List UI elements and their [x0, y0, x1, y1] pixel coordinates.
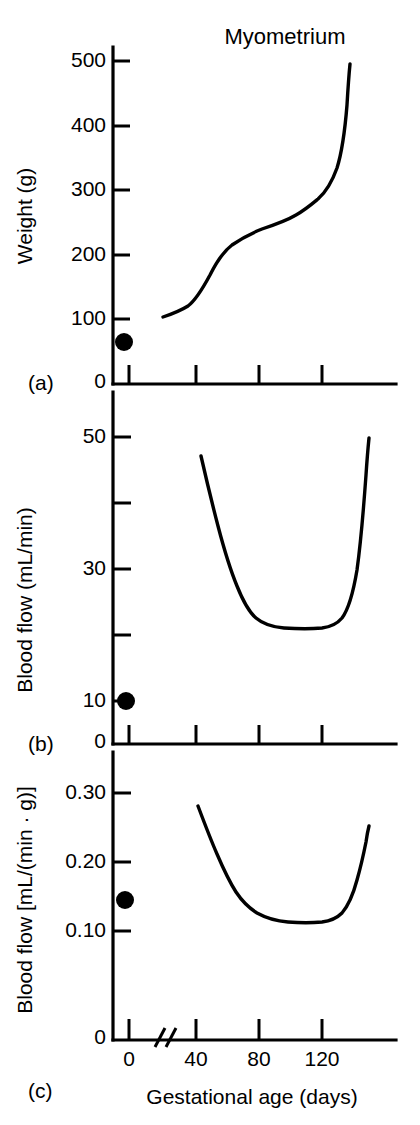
- panel-b-ylabel-10: 10: [83, 688, 106, 711]
- panel-b-ylabel-30: 30: [83, 556, 106, 579]
- xtick-label-0: 0: [123, 1047, 135, 1070]
- panel-a-ylabel-100: 100: [71, 306, 106, 329]
- panel-a-nonpregnant-dot: [115, 333, 133, 351]
- panel-a-ylabel-500: 500: [71, 48, 106, 71]
- panel-a-ylabel-300: 300: [71, 177, 106, 200]
- panel-c-letter: (c): [28, 1079, 53, 1102]
- x-axis-title: Gestational age (days): [146, 1085, 357, 1108]
- xtick-label-120: 120: [304, 1047, 339, 1070]
- panel-a: Myometrium 500 400 300 200 100 0: [13, 24, 396, 394]
- myometrium-figure: Myometrium 500 400 300 200 100 0: [0, 0, 420, 1125]
- panel-c-ylabel-030: 0.30: [65, 780, 106, 803]
- panel-b-y-axis-title: Blood flow (mL/min): [13, 507, 36, 693]
- x-axis-break-marks: [155, 1028, 176, 1047]
- panel-b: 50 30 10 0 Blood flow (mL/min) (b): [13, 392, 396, 755]
- panel-b-ylabel-0: 0: [94, 729, 106, 752]
- panel-a-y-axis-title: Weight (g): [13, 168, 36, 264]
- xtick-label-40: 40: [184, 1047, 207, 1070]
- panel-a-ylabel-200: 200: [71, 242, 106, 265]
- panel-a-ylabel-400: 400: [71, 113, 106, 136]
- panel-b-nonpregnant-dot: [117, 692, 135, 710]
- panel-a-weight-curve: [163, 64, 350, 317]
- panel-c-ylabel-0: 0: [94, 1025, 106, 1048]
- panel-c-nonpregnant-dot: [116, 891, 134, 909]
- xtick-label-80: 80: [247, 1047, 270, 1070]
- figure-root: Myometrium 500 400 300 200 100 0: [0, 0, 420, 1125]
- panel-c-bloodflow-curve: [198, 806, 369, 923]
- x-axis-labels: 0 40 80 120: [123, 1047, 339, 1070]
- panel-b-bloodflow-curve: [201, 438, 369, 629]
- panel-c-ylabel-010: 0.10: [65, 918, 106, 941]
- panel-b-ylabel-50: 50: [83, 424, 106, 447]
- panel-b-letter: (b): [28, 732, 54, 755]
- panel-a-ylabel-0: 0: [94, 369, 106, 392]
- panel-c-ylabel-020: 0.20: [65, 849, 106, 872]
- panel-c-y-axis-title: Blood flow [mL/(min · g)]: [13, 786, 36, 1014]
- panel-a-title: Myometrium: [224, 24, 345, 49]
- panel-a-letter: (a): [28, 371, 54, 394]
